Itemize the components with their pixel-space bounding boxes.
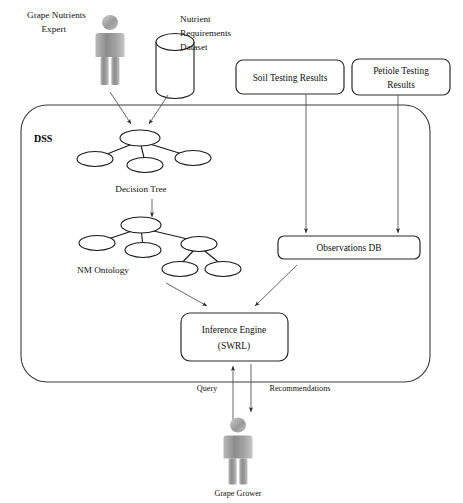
dataset-label-line1: Nutrient: [180, 14, 211, 24]
soil-testing-results-label: Soil Testing Results: [253, 73, 328, 83]
grape-grower: Grape Grower: [214, 418, 261, 499]
observations-db-box: Observations DB: [278, 236, 420, 259]
person-icon: [224, 418, 253, 485]
grape-nutrients-expert: Grape Nutrients Expert: [27, 10, 125, 85]
nm-ontology-tree: NM Ontology: [77, 217, 241, 277]
edge-observations-db-to-inference-engine: [255, 265, 297, 306]
petiole-testing-results-label-line1: Petiole Testing: [373, 66, 429, 76]
petiole-testing-results-box: Petiole Testing Results: [352, 59, 450, 95]
dataset-label-line2: Requirements: [180, 28, 231, 38]
nm-ontology-node-grandchild-2: [205, 262, 241, 277]
decision-tree-node-root: [120, 130, 160, 146]
expert-label-line2: Expert: [42, 24, 67, 34]
nm-ontology-node-root: [121, 217, 161, 233]
edge-expert-to-decision-tree: [110, 92, 131, 124]
recommendations-label: Recommendations: [270, 384, 331, 393]
nutrient-requirements-dataset: Nutrient Requirements Dataset: [156, 14, 231, 99]
nm-ontology-label: NM Ontology: [77, 265, 129, 275]
inference-engine-label-line2: (SWRL): [218, 341, 250, 352]
nm-ontology-node-child-2: [125, 243, 161, 258]
petiole-testing-results-label-line2: Results: [387, 80, 415, 90]
nm-ontology-node-grandchild-1: [162, 262, 198, 277]
dss-architecture-diagram: DSS Grape Nutrients Expert Nutrient Requ…: [0, 0, 463, 503]
soil-testing-results-box: Soil Testing Results: [236, 60, 344, 94]
expert-label-line1: Grape Nutrients: [27, 10, 86, 20]
dataset-label-line3: Dataset: [180, 42, 208, 52]
edge-nm-ontology-to-inference-engine: [166, 283, 207, 306]
diagram-canvas: DSS Grape Nutrients Expert Nutrient Requ…: [0, 0, 463, 503]
edge-dataset-to-decision-tree: [149, 95, 168, 124]
query-label: Query: [197, 384, 218, 393]
observations-db-label: Observations DB: [317, 243, 382, 253]
inference-engine-box: Inference Engine (SWRL): [181, 313, 288, 361]
decision-tree: Decision Tree: [77, 130, 211, 194]
decision-tree-label: Decision Tree: [115, 184, 166, 194]
nm-ontology-node-child-3: [181, 237, 217, 252]
dss-boundary-label: DSS: [34, 133, 53, 144]
inference-engine-label-line1: Inference Engine: [202, 325, 266, 335]
decision-tree-node-child-3: [175, 151, 211, 166]
grape-grower-label: Grape Grower: [214, 489, 261, 498]
nm-ontology-node-child-1: [79, 236, 115, 251]
decision-tree-node-child-1: [77, 152, 113, 167]
decision-tree-node-child-2: [127, 158, 163, 173]
person-icon: [96, 15, 125, 85]
